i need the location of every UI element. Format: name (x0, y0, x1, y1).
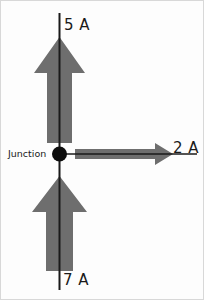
junction-label: Junction (8, 149, 46, 159)
right-current-label: 2 A (173, 141, 199, 156)
top-current-label: 5 A (64, 18, 90, 33)
junction-dot (52, 147, 67, 162)
current-junction-figure: 5 A 2 A 7 A Junction (0, 0, 204, 300)
bottom-current-label: 7 A (63, 273, 89, 288)
